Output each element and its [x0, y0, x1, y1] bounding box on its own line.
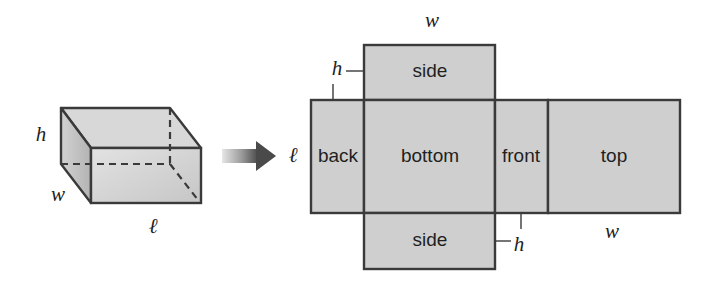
net-right-width-label: w: [605, 219, 619, 243]
prism-width-label: w: [51, 182, 65, 206]
net-top-width-label: w: [425, 8, 439, 32]
net-lower-height-label: h: [514, 232, 525, 256]
prism-front-face: [91, 148, 201, 203]
net-upper-height-label: h: [332, 56, 343, 80]
right-arrow-icon: [222, 141, 276, 171]
face-label-top: top: [601, 145, 627, 166]
face-label-back: back: [318, 145, 359, 166]
face-label-bottom: bottom: [401, 145, 459, 166]
face-label-side-upper: side: [413, 60, 448, 81]
prism-length-label: ℓ: [149, 214, 158, 238]
face-label-side-lower: side: [413, 229, 448, 250]
prism-net-diagram: h w ℓ side back bottom front top side w …: [0, 0, 707, 281]
face-label-front: front: [502, 145, 541, 166]
prism-height-label: h: [36, 122, 47, 146]
rectangular-prism: [61, 108, 201, 203]
net-left-length-label: ℓ: [289, 143, 298, 167]
